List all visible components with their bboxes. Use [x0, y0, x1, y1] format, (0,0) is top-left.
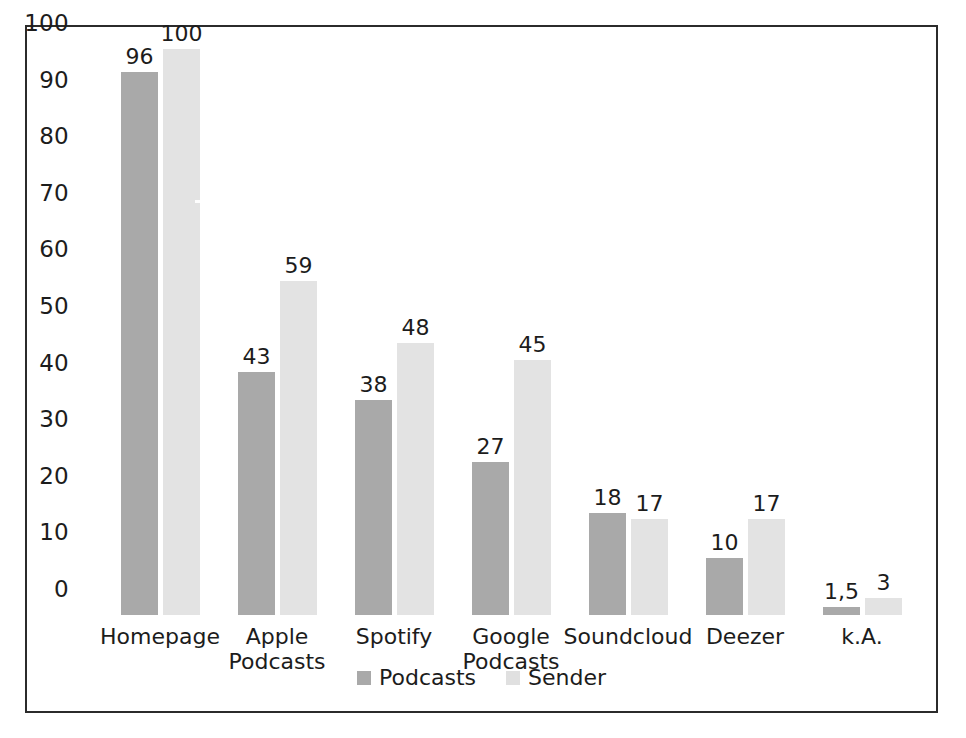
x-axis-category-label: Soundcloud — [564, 625, 693, 650]
bar-value-label: 43 — [243, 346, 271, 368]
legend-swatch-icon — [506, 671, 520, 685]
bar-value-label: 18 — [594, 487, 622, 509]
chart-legend: PodcastsSender — [27, 667, 936, 689]
bar-podcasts-2[interactable]: 38 — [355, 400, 392, 615]
bar-value-label: 100 — [161, 23, 203, 45]
bar-value-label: 1,5 — [824, 581, 859, 603]
bar-value-label: 96 — [126, 46, 154, 68]
category-label-line: Google — [462, 625, 559, 650]
y-axis-tick-30: 30 — [39, 406, 69, 432]
legend-item-sender[interactable]: Sender — [506, 667, 606, 689]
bar-group-apple-podcasts: 4359ApplePodcasts — [238, 49, 317, 615]
y-axis-tick-40: 40 — [39, 350, 69, 376]
category-label-line: k.A. — [841, 625, 882, 650]
legend-label: Sender — [528, 667, 606, 689]
bar-sender-6[interactable]: 3 — [865, 598, 902, 615]
bar-group-soundcloud: 1817Soundcloud — [589, 49, 668, 615]
bar-podcasts-1[interactable]: 43 — [238, 372, 275, 615]
bar-value-label: 38 — [360, 374, 388, 396]
bar-group-spotify: 3848Spotify — [355, 49, 434, 615]
bar-value-label: 45 — [519, 334, 547, 356]
category-label-line: Homepage — [100, 625, 220, 650]
bar-value-label: 3 — [877, 572, 891, 594]
y-axis-tick-0: 0 — [54, 576, 69, 602]
x-axis-category-label: Homepage — [100, 625, 220, 650]
bar-group-homepage: 96100Homepage — [121, 49, 200, 615]
chart-page: 1009080706050403020100 96100Homepage4359… — [0, 0, 966, 738]
legend-swatch-icon — [357, 671, 371, 685]
bar-podcasts-0[interactable]: 96 — [121, 72, 158, 615]
bar-value-label: 17 — [636, 493, 664, 515]
y-axis-tick-90: 90 — [39, 67, 69, 93]
bar-value-label: 48 — [402, 317, 430, 339]
y-axis-tick-60: 60 — [39, 236, 69, 262]
bar-value-label: 17 — [753, 493, 781, 515]
x-axis-category-label: Deezer — [706, 625, 784, 650]
y-axis-tick-70: 70 — [39, 180, 69, 206]
category-label-line: Soundcloud — [564, 625, 693, 650]
x-axis-category-label: Spotify — [356, 625, 433, 650]
y-axis-tick-80: 80 — [39, 123, 69, 149]
plot-area: 1009080706050403020100 96100Homepage4359… — [83, 49, 893, 615]
bar-podcasts-5[interactable]: 10 — [706, 558, 743, 615]
x-axis-category-label: k.A. — [841, 625, 882, 650]
bar-group-google-podcasts: 2745GooglePodcasts — [472, 49, 551, 615]
bar-sender-1[interactable]: 59 — [280, 281, 317, 615]
scan-artifact-streak — [195, 200, 287, 203]
y-axis-tick-100: 100 — [24, 10, 69, 36]
legend-item-podcasts[interactable]: Podcasts — [357, 667, 476, 689]
category-label-line: Apple — [228, 625, 325, 650]
y-axis-tick-50: 50 — [39, 293, 69, 319]
bar-podcasts-4[interactable]: 18 — [589, 513, 626, 615]
bar-group-ka: 1,53k.A. — [823, 49, 902, 615]
bar-sender-3[interactable]: 45 — [514, 360, 551, 615]
bar-value-label: 27 — [477, 436, 505, 458]
bar-podcasts-6[interactable]: 1,5 — [823, 607, 860, 615]
bar-sender-4[interactable]: 17 — [631, 519, 668, 615]
y-axis-tick-20: 20 — [39, 463, 69, 489]
bar-value-label: 10 — [711, 532, 739, 554]
bar-sender-5[interactable]: 17 — [748, 519, 785, 615]
bar-sender-2[interactable]: 48 — [397, 343, 434, 615]
chart-frame-border: 1009080706050403020100 96100Homepage4359… — [25, 25, 938, 713]
category-label-line: Spotify — [356, 625, 433, 650]
y-axis-tick-10: 10 — [39, 519, 69, 545]
bar-group-deezer: 1017Deezer — [706, 49, 785, 615]
category-label-line: Deezer — [706, 625, 784, 650]
legend-label: Podcasts — [379, 667, 476, 689]
bar-value-label: 59 — [285, 255, 313, 277]
bar-podcasts-3[interactable]: 27 — [472, 462, 509, 615]
bar-sender-0[interactable]: 100 — [163, 49, 200, 615]
